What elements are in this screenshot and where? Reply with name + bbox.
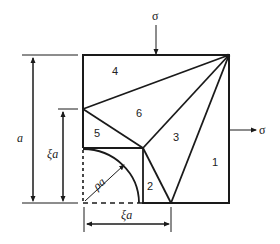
dimension-rho-a-label: ρa <box>89 175 108 194</box>
region-boundaries <box>83 55 229 203</box>
plate-outline <box>83 55 229 203</box>
region-label-4: 4 <box>112 65 118 77</box>
apex-node <box>226 54 230 58</box>
right-load-label: σ <box>259 123 266 137</box>
dimension-xi-a-vertical <box>58 109 78 201</box>
region-label-3: 3 <box>173 131 179 143</box>
dimension-a-label: a <box>17 131 23 145</box>
region-label-6: 6 <box>136 107 142 119</box>
dimension-xi-a-vertical-label: ξa <box>47 147 58 161</box>
plate-diagram: 4 6 5 3 1 2 σ σ a ξa ρa ξa <box>0 0 280 244</box>
top-load-label: σ <box>152 9 159 23</box>
dimension-a <box>22 55 78 203</box>
region-label-1: 1 <box>212 156 218 168</box>
region-label-5: 5 <box>94 127 100 139</box>
region-label-2: 2 <box>147 180 153 192</box>
dimension-xi-a-horizontal-label: ξa <box>121 208 132 222</box>
